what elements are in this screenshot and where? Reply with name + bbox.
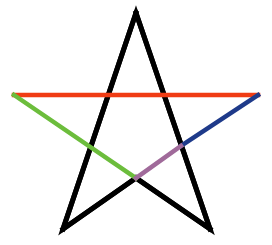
right-diagonal-lower-segment (136, 146, 181, 178)
star-outline (63, 13, 210, 229)
pentagram-diagram (0, 0, 272, 245)
right-diagonal-upper-segment (181, 95, 258, 146)
star-segments (14, 13, 258, 229)
right-arm-outer-segment (136, 13, 210, 229)
left-arm-outer-segment (63, 13, 136, 229)
left-diagonal-chord-segment (14, 95, 136, 178)
